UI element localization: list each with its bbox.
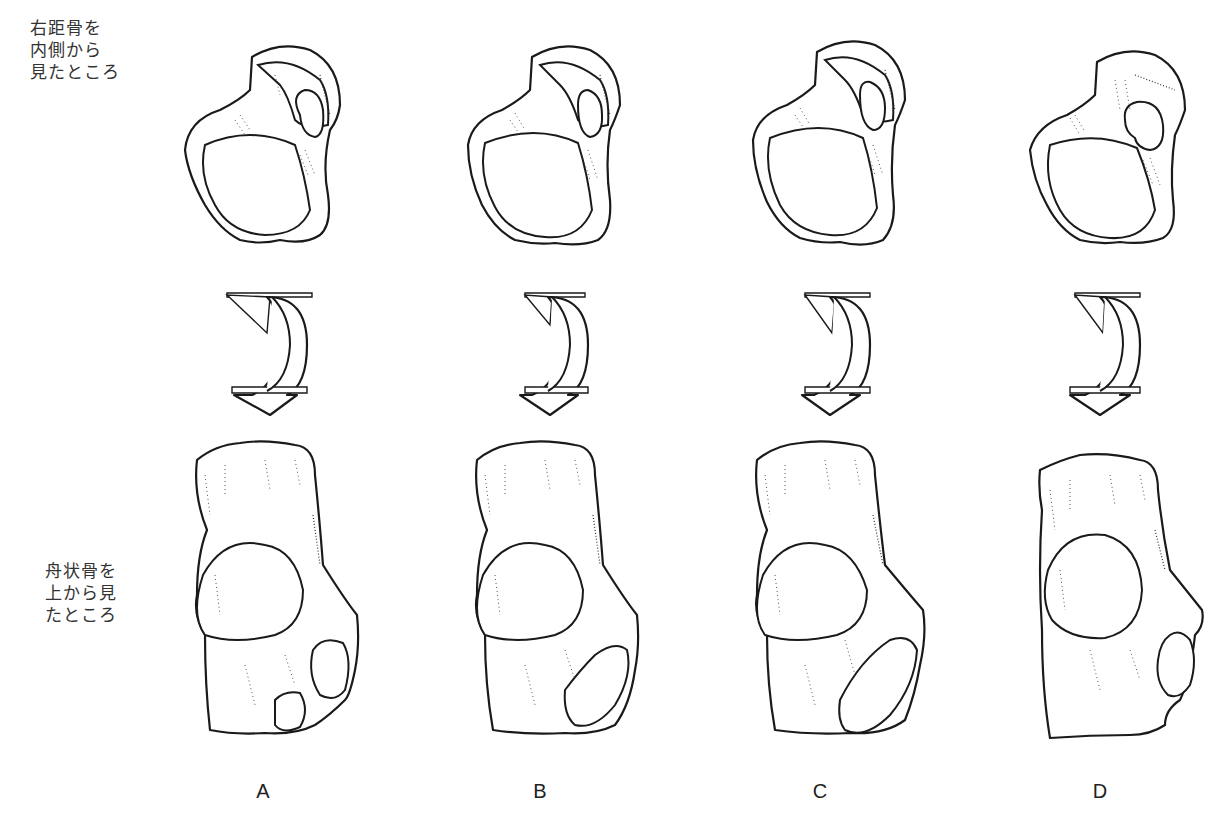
- talus-drawing-c: [745, 30, 925, 265]
- rotation-arrow-d: [1055, 285, 1165, 415]
- column-label-a: A: [248, 780, 278, 803]
- rotation-arrow-b: [500, 285, 610, 415]
- talus-drawing-d: [1025, 40, 1205, 265]
- column-label-b: B: [525, 780, 555, 803]
- navicular-drawing-d: [1030, 450, 1220, 760]
- column-label-c: C: [805, 780, 835, 803]
- talus-drawing-b: [460, 35, 640, 265]
- talus-drawing-a: [180, 35, 360, 265]
- row-label-talus: 右距骨を 内側から 見たところ: [30, 17, 120, 83]
- rotation-arrow-a: [222, 285, 332, 415]
- column-label-d: D: [1085, 780, 1115, 803]
- navicular-drawing-a: [185, 435, 365, 755]
- rotation-arrow-c: [780, 285, 890, 415]
- navicular-drawing-b: [465, 435, 645, 755]
- row-label-navicular: 舟状骨を 上から見 たところ: [45, 560, 117, 626]
- navicular-drawing-c: [745, 435, 935, 755]
